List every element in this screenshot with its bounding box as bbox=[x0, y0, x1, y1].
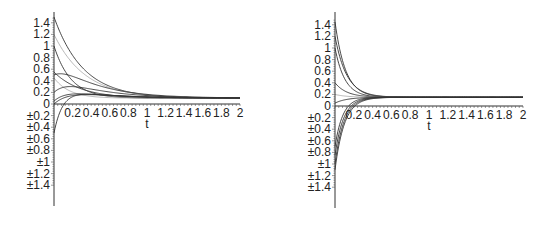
x-tick-label: 0.4 bbox=[83, 106, 100, 120]
x-tick-label: 1.6 bbox=[477, 108, 494, 122]
curve-s2 bbox=[335, 36, 523, 97]
x-tick-label: 0.2 bbox=[345, 108, 362, 122]
curve-s3 bbox=[335, 48, 523, 97]
y-tick-label: ±1.4 bbox=[27, 178, 51, 192]
x-tick-label: 0.8 bbox=[402, 108, 419, 122]
x-tick-label: 1.8 bbox=[213, 106, 230, 120]
x-tick-label: 1.2 bbox=[157, 106, 174, 120]
y-tick-label: ±1.4 bbox=[308, 180, 332, 194]
x-tick-label: 0.2 bbox=[64, 106, 81, 120]
x-tick-label: 1.4 bbox=[176, 106, 193, 120]
x-tick-label: 2 bbox=[520, 108, 527, 122]
curve-s4 bbox=[335, 83, 523, 98]
chart-canvas: 1.41.210.80.60.40.20±0.2±0.4±0.6±0.8±1±1… bbox=[0, 0, 554, 225]
x-tick-label: 0.4 bbox=[364, 108, 381, 122]
curve-s1 bbox=[54, 17, 240, 98]
right-plot: 1.41.210.80.60.40.20±0.2±0.4±0.6±0.8±1±1… bbox=[308, 12, 527, 208]
left-plot: 1.41.210.80.60.40.20±0.2±0.4±0.6±0.8±1±1… bbox=[27, 12, 244, 206]
x-tick-label: 1.2 bbox=[439, 108, 456, 122]
x-tick-label: 0.8 bbox=[120, 106, 137, 120]
x-tick-label: 1.4 bbox=[458, 108, 475, 122]
x-tick-label: 0.6 bbox=[101, 106, 118, 120]
x-tick-label: 0.6 bbox=[383, 108, 400, 122]
x-tick-label: 1.6 bbox=[194, 106, 211, 120]
curve-s1 bbox=[335, 22, 523, 97]
x-tick-label: 2 bbox=[237, 106, 244, 120]
x-tick-label: 1.8 bbox=[496, 108, 513, 122]
